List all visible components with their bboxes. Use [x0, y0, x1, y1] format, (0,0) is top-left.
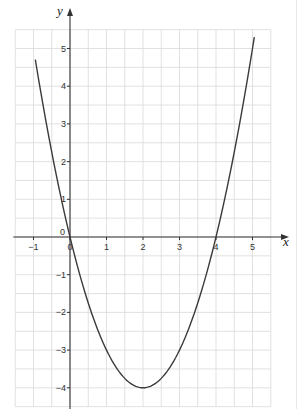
x-tick-label: −1 [28, 242, 38, 252]
y-tick-label: −3 [56, 345, 66, 355]
y-tick-label: 3 [61, 119, 66, 129]
y-tick-label: 5 [61, 44, 66, 54]
y-axis-arrow-icon [67, 8, 73, 16]
x-tick-label: 1 [104, 242, 109, 252]
origin-label: 0 [60, 227, 65, 237]
y-tick-label: −4 [56, 383, 66, 393]
y-tick-label: −2 [56, 307, 66, 317]
y-axis-label: y [55, 3, 63, 18]
x-axis-label: x [282, 234, 289, 249]
y-tick-label: 4 [61, 81, 66, 91]
grid [15, 30, 271, 407]
x-tick-label: 2 [140, 242, 145, 252]
parabola-chart: −1012345−4−3−2−112345 x y 0 [0, 0, 298, 409]
axes [13, 8, 289, 409]
x-tick-label: 5 [250, 242, 255, 252]
y-tick-label: 2 [61, 157, 66, 167]
y-tick-label: −1 [56, 270, 66, 280]
parabola-curve [35, 37, 254, 388]
x-tick-label: 3 [177, 242, 182, 252]
page-edge [296, 0, 297, 409]
